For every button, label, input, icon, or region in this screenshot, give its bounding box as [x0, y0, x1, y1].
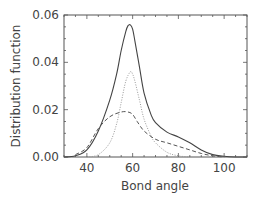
y-tick-label: 0.06 [32, 8, 59, 22]
curve-dotted [87, 71, 190, 157]
y-tick-label: 0.04 [32, 55, 59, 69]
distribution-chart: 4060801000.000.020.040.06 Bond angle Dis… [0, 0, 259, 199]
x-axis-label: Bond angle [121, 179, 189, 193]
y-tick-label: 0.02 [32, 103, 59, 117]
y-tick-label: 0.00 [32, 150, 59, 164]
plot-frame [64, 15, 247, 157]
x-tick-label: 60 [125, 161, 140, 175]
data-curves [64, 25, 247, 157]
x-tick-label: 100 [213, 161, 236, 175]
x-tick-label: 40 [79, 161, 94, 175]
plot-border [64, 15, 247, 157]
curve-solid [64, 25, 247, 157]
y-axis-label: Distribution function [9, 25, 23, 148]
x-tick-label: 80 [171, 161, 186, 175]
